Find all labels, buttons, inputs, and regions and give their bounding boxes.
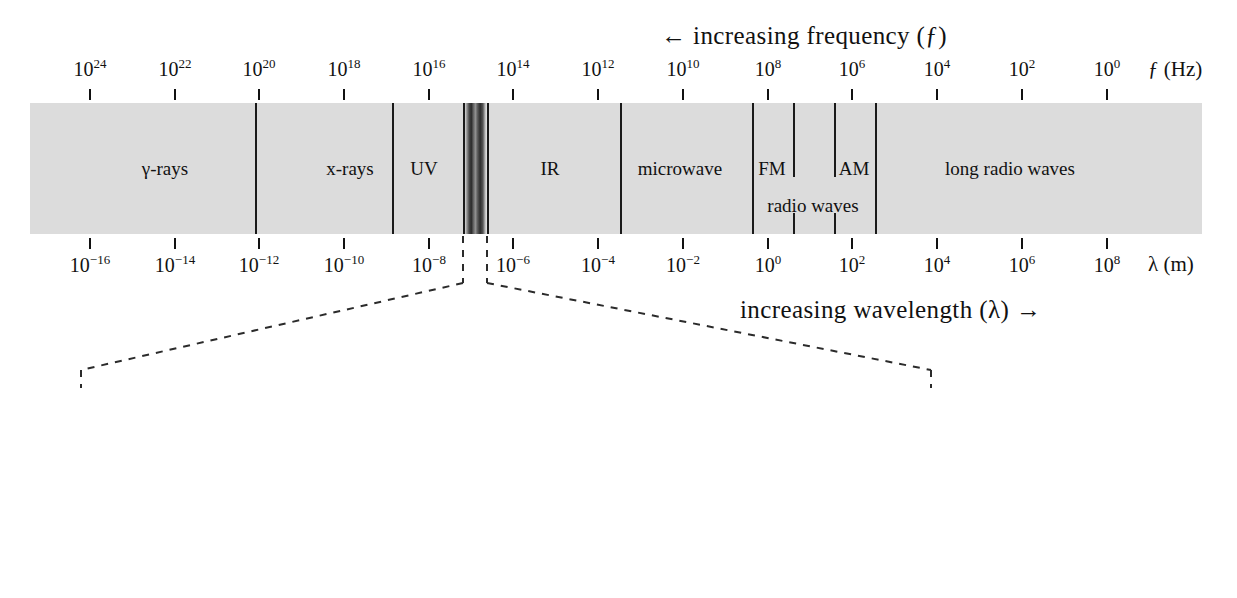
gamma-xray-divider (255, 103, 257, 234)
wavelength-axis: 10−1610−1410−1210−1010−810−610−410−21001… (0, 236, 1237, 284)
frequency-tick-mark (428, 89, 430, 100)
wavelength-tick-label: 10−6 (496, 252, 530, 277)
wavelength-tick-mark (767, 238, 769, 249)
wavelength-tick-mark (1106, 238, 1108, 249)
wavelength-tick-mark (258, 238, 260, 249)
frequency-tick-label: 1010 (667, 56, 700, 81)
wavelength-tick-mark (1021, 238, 1023, 249)
band-label-uv: UV (410, 158, 437, 180)
wavelength-tick-label: 10−4 (581, 252, 615, 277)
wavelength-tick-label: 10−10 (324, 252, 364, 277)
visible-light-sliver (465, 103, 486, 234)
frequency-tick-mark (343, 89, 345, 100)
wavelength-tick-label: 10−12 (239, 252, 279, 277)
wavelength-tick-mark (851, 238, 853, 249)
wavelength-tick-mark (174, 238, 176, 249)
wavelength-tick-mark (936, 238, 938, 249)
wavelength-axis-name: λ (m) (1148, 252, 1194, 277)
frequency-tick-label: 1020 (243, 56, 276, 81)
frequency-tick-mark (767, 89, 769, 100)
wavelength-tick-label: 10−14 (155, 252, 195, 277)
wavelength-tick-label: 106 (1009, 252, 1036, 277)
band-label-long-radio-waves: long radio waves (945, 158, 1075, 180)
frequency-tick-label: 106 (839, 56, 866, 81)
wavelength-tick-label: 10−8 (412, 252, 446, 277)
frequency-tick-label: 1022 (159, 56, 192, 81)
frequency-tick-label: 104 (924, 56, 951, 81)
ir-microwave-divider (620, 103, 622, 234)
band-label-gamma-rays: γ-rays (142, 158, 188, 180)
wavelength-tick-mark (597, 238, 599, 249)
fm-divider (793, 103, 795, 177)
wavelength-tick-mark (343, 238, 345, 249)
wavelength-tick-label: 104 (924, 252, 951, 277)
wavelength-tick-mark (89, 238, 91, 249)
band-label-fm: FM (758, 158, 785, 180)
band-label-microwave: microwave (638, 158, 722, 180)
frequency-tick-mark (851, 89, 853, 100)
wavelength-tick-label: 108 (1094, 252, 1121, 277)
frequency-tick-mark (174, 89, 176, 100)
frequency-tick-mark (89, 89, 91, 100)
wavelength-tick-mark (512, 238, 514, 249)
frequency-tick-label: 100 (1094, 56, 1121, 81)
frequency-tick-label: 108 (755, 56, 782, 81)
band-label-x-rays: x-rays (326, 158, 373, 180)
visible-spectrum-panel: visible spectrum 380450495570590620750VB… (0, 330, 1237, 598)
wavelength-tick-label: 100 (755, 252, 782, 277)
frequency-tick-label: 1024 (74, 56, 107, 81)
frequency-tick-mark (1021, 89, 1023, 100)
radio-long-divider (875, 103, 877, 234)
wavelength-tick-mark (428, 238, 430, 249)
xray-uv-divider (392, 103, 394, 234)
uv-visible-divider (463, 103, 465, 234)
frequency-tick-mark (936, 89, 938, 100)
frequency-tick-label: 1016 (413, 56, 446, 81)
frequency-tick-label: 1018 (328, 56, 361, 81)
frequency-tick-label: 1014 (497, 56, 530, 81)
band-label-ir: IR (541, 158, 560, 180)
frequency-tick-mark (258, 89, 260, 100)
frequency-tick-mark (597, 89, 599, 100)
frequency-axis: 1024102210201018101610141012101010810610… (0, 56, 1237, 104)
wavelength-tick-mark (682, 238, 684, 249)
band-label-radio-waves: radio waves (767, 195, 858, 217)
increasing-wavelength-label: increasing wavelength (λ) → (740, 296, 1210, 324)
frequency-tick-label: 102 (1009, 56, 1036, 81)
frequency-tick-mark (682, 89, 684, 100)
radio-subband-stub (834, 213, 836, 234)
am-left-divider (834, 103, 836, 177)
wavelength-tick-label: 10−16 (70, 252, 110, 277)
frequency-tick-label: 1012 (582, 56, 615, 81)
electromagnetic-spectrum-bar: γ-raysx-raysUVIRmicrowaveFMAMlong radio … (30, 103, 1202, 234)
wavelength-tick-label: 102 (839, 252, 866, 277)
radio-subband-stub (793, 213, 795, 234)
microwave-radio-divider (752, 103, 754, 234)
frequency-axis-name: ƒ (Hz) (1148, 57, 1202, 82)
increasing-frequency-label: ← increasing frequency (ƒ) (661, 22, 1131, 50)
em-spectrum-figure: ← increasing frequency (ƒ) 1024102210201… (0, 0, 1237, 598)
frequency-tick-mark (512, 89, 514, 100)
visible-ir-divider (487, 103, 489, 234)
frequency-tick-mark (1106, 89, 1108, 100)
band-label-am: AM (839, 158, 870, 180)
wavelength-tick-label: 10−2 (666, 252, 700, 277)
